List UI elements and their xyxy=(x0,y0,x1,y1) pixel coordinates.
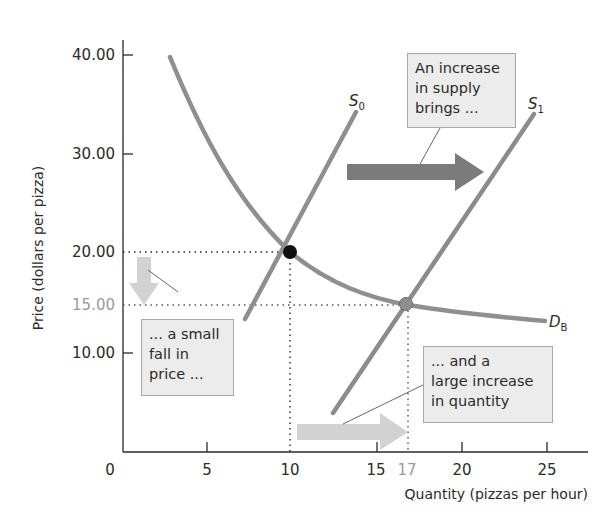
s1-label: S1 xyxy=(528,95,544,115)
price-fall-arrow xyxy=(129,257,159,305)
x-tick-label-0: 0 xyxy=(105,461,115,479)
y-tick-label-40: 40.00 xyxy=(72,46,115,64)
supply-curve-s0 xyxy=(245,112,356,319)
supply-note-leader xyxy=(420,128,440,164)
quantity-increase-arrow xyxy=(297,413,408,450)
x-tick-label-10: 10 xyxy=(280,461,299,479)
y-tick-label-20: 20.00 xyxy=(72,243,115,261)
price-fall-note: ... a small fall in price ... xyxy=(141,319,234,396)
y-tick-label-15: 15.00 xyxy=(72,296,115,314)
x-tick-label-5: 5 xyxy=(202,461,212,479)
db-label: DB xyxy=(549,313,568,333)
supply-shift-arrow xyxy=(347,153,484,191)
x-tick-label-17: 17 xyxy=(397,461,416,479)
supply-increase-note: An increase in supply brings ... xyxy=(407,53,516,128)
x-tick-label-20: 20 xyxy=(452,461,471,479)
y-axis-title: Price (dollars per pizza) xyxy=(30,166,46,331)
y-tick-label-10: 10.00 xyxy=(72,344,115,362)
quantity-increase-note: ... and a large increase in quantity xyxy=(423,346,553,423)
y-tick-label-30: 30.00 xyxy=(72,145,115,163)
new-equilibrium-point xyxy=(400,298,413,311)
original-equilibrium-point xyxy=(283,245,297,259)
x-tick-label-25: 25 xyxy=(537,461,556,479)
s0-label: S0 xyxy=(349,92,365,112)
x-tick-label-15: 15 xyxy=(366,461,385,479)
x-axis-title: Quantity (pizzas per hour) xyxy=(405,486,588,502)
